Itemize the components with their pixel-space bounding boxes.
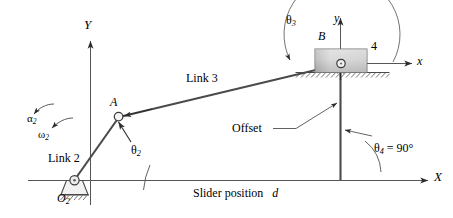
theta3-subscript: 3 xyxy=(292,19,296,28)
kinematic-diagram: Y X y x O2 A B Link 2 Link 3 4 θ2 θ3 θ4=… xyxy=(0,0,453,218)
theta3-label: θ3 xyxy=(286,14,296,28)
local-y-axis-label: y xyxy=(334,12,339,24)
alpha2-arrow xyxy=(34,104,54,114)
link-4-label: 4 xyxy=(371,40,377,52)
omega2-subscript: 2 xyxy=(45,133,49,142)
theta4-label: θ4= 90° xyxy=(374,142,413,156)
offset-label: Offset xyxy=(232,122,262,134)
joint-b-label: B xyxy=(318,30,325,42)
link-3-arrow xyxy=(124,109,152,116)
theta4-leader xyxy=(345,130,372,136)
link-3-label: Link 3 xyxy=(186,72,218,84)
alpha2-subscript: 2 xyxy=(33,117,37,126)
slider-ground-surface xyxy=(296,73,390,78)
ground-hatching xyxy=(296,73,390,78)
omega2-arrow xyxy=(52,118,73,128)
global-x-axis-label: X xyxy=(434,170,442,183)
slider-position-variable: d xyxy=(272,186,278,200)
slider-position-label: Slider positiond xyxy=(193,187,278,199)
pivot-o2-subscript: 2 xyxy=(66,197,70,206)
omega2-label: ω2 xyxy=(38,129,49,141)
global-axes xyxy=(28,41,428,205)
theta2-subscript: 2 xyxy=(137,149,141,158)
theta4-subscript: 4 xyxy=(380,147,384,156)
link-3-member xyxy=(119,64,341,117)
pivot-o2-letter: O xyxy=(57,191,66,205)
joint-b-pivot xyxy=(337,59,345,67)
link-2-member xyxy=(75,117,120,180)
link-2-label: Link 2 xyxy=(48,152,80,164)
link-2-arrow xyxy=(119,122,132,142)
slider-position-text: Slider position xyxy=(193,186,263,200)
theta2-arc xyxy=(144,165,151,190)
joint-a-pivot xyxy=(114,112,123,121)
offset-leader xyxy=(273,103,337,129)
alpha2-label: α2 xyxy=(27,113,37,125)
local-x-axis-label: x xyxy=(417,55,422,67)
theta2-label: θ2 xyxy=(131,144,141,158)
theta4-value: = 90° xyxy=(387,141,414,155)
pivot-o2-label: O2 xyxy=(57,192,70,206)
joint-a-label: A xyxy=(110,96,117,108)
global-y-axis-label: Y xyxy=(84,18,91,31)
